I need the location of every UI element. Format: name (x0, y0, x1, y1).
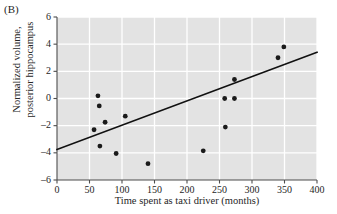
data-point (114, 151, 119, 156)
data-point (232, 96, 237, 101)
x-tick-label: 300 (237, 184, 267, 195)
figure-panel-b: (B) Normalized volume, posterior hippoca… (0, 0, 337, 214)
x-tick-label: 100 (107, 184, 137, 195)
y-tick-label: –6 (25, 174, 51, 185)
data-point (222, 96, 227, 101)
data-point (281, 44, 286, 49)
data-point (96, 93, 101, 98)
y-tick-label: –4 (25, 146, 51, 157)
x-tick-label: 350 (270, 184, 300, 195)
data-point (146, 161, 151, 166)
data-point (232, 77, 237, 82)
data-point (276, 55, 281, 60)
y-tick-label: 6 (25, 11, 51, 22)
y-tick-label: 4 (25, 38, 51, 49)
x-tick-label: 200 (172, 184, 202, 195)
x-tick-label: 0 (42, 184, 72, 195)
x-tick-label: 150 (140, 184, 170, 195)
x-tick-label: 50 (75, 184, 105, 195)
x-tick-label: 250 (205, 184, 235, 195)
data-point (97, 104, 102, 109)
data-point (98, 144, 103, 149)
data-point (201, 148, 206, 153)
data-point (223, 125, 228, 130)
data-point (123, 114, 128, 119)
x-tick-label: 400 (302, 184, 332, 195)
y-tick-label: 0 (25, 92, 51, 103)
data-point (92, 127, 97, 132)
y-tick-label: 2 (25, 65, 51, 76)
data-point (103, 120, 108, 125)
y-tick-label: –2 (25, 119, 51, 130)
